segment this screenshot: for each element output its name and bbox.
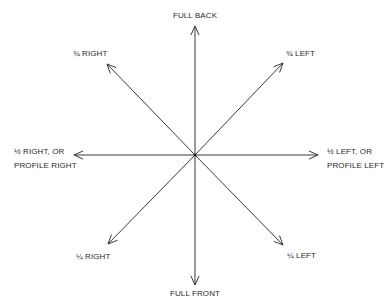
label-half-right-line2: PROFILE RIGHT — [14, 159, 77, 173]
arrow-full-back — [191, 26, 199, 155]
label-three-quarter-right: ¾ RIGHT — [73, 47, 107, 61]
arrow-half-right — [74, 151, 195, 159]
arrow-half-left — [195, 151, 318, 159]
label-full-front: FULL FRONT — [170, 287, 220, 301]
label-half-right: ½ RIGHT, OR PROFILE RIGHT — [14, 145, 77, 173]
arrow-three-quarter-left — [195, 63, 283, 155]
arrow-three-quarter-right — [107, 64, 195, 155]
label-half-left: ½ LEFT, OR PROFILE LEFT — [327, 145, 384, 173]
label-half-left-line2: PROFILE LEFT — [327, 159, 384, 173]
arrow-full-front — [191, 155, 199, 285]
arrow-quarter-left — [195, 155, 283, 245]
arrow-quarter-right — [108, 155, 195, 244]
turn-direction-diagram: FULL BACK ¾ LEFT ½ LEFT, OR PROFILE LEFT… — [0, 0, 388, 307]
label-half-left-line1: ½ LEFT, OR — [327, 145, 384, 159]
center-point — [194, 154, 197, 157]
label-three-quarter-left: ¾ LEFT — [286, 47, 315, 61]
label-half-right-line1: ½ RIGHT, OR — [14, 145, 77, 159]
label-quarter-right: ¼ RIGHT — [76, 250, 110, 264]
label-full-back: FULL BACK — [173, 9, 217, 23]
label-quarter-left: ¼ LEFT — [287, 249, 316, 263]
